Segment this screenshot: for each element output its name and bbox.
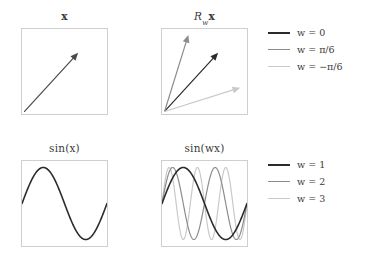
legend-item-label: w = 1	[297, 159, 325, 170]
plot-panel-rotated-vector	[161, 28, 248, 115]
legend-item[interactable]: w = π/6	[268, 43, 343, 56]
sine-w-curve-group	[162, 167, 247, 239]
legend-rotation: w = 0w = π/6w = −π/6	[268, 26, 343, 73]
legend-item[interactable]: w = 3	[268, 192, 325, 205]
legend-item-label: w = 2	[297, 176, 325, 187]
legend-item[interactable]: w = 0	[268, 26, 343, 39]
plot-panel-vector	[21, 28, 108, 115]
panel-title-rwx-suffix: x	[208, 10, 214, 22]
panel-title-rwx-base: R	[194, 10, 202, 22]
figure-canvas: x Rwx sin(x) sin(wx) w = 0w = π/6w = −π/…	[0, 0, 366, 267]
panel-title-x: x	[21, 10, 108, 22]
legend-line-swatch	[268, 66, 290, 67]
panel-title-sinwx: sin(wx)	[161, 142, 248, 154]
legend-line-swatch	[268, 164, 290, 166]
rotated-arrow-group	[165, 35, 241, 112]
legend-item-label: w = −π/6	[297, 61, 343, 72]
panel-title-rwx-subscript: w	[202, 19, 208, 27]
legend-item[interactable]: w = 1	[268, 158, 325, 171]
arrow-head	[183, 35, 189, 43]
legend-line-swatch	[268, 181, 290, 182]
legend-item-label: w = 3	[297, 193, 325, 204]
sine-curve	[162, 167, 247, 239]
arrow-shaft	[165, 40, 187, 111]
sine-curve-group	[22, 167, 107, 239]
legend-item-label: w = π/6	[297, 44, 335, 55]
rotated-vector-plot-svg	[162, 29, 247, 114]
sine-w-plot-svg	[162, 161, 247, 246]
legend-item[interactable]: w = −π/6	[268, 60, 343, 73]
panel-title-sinwx-text: sin(wx)	[184, 142, 224, 154]
panel-title-x-text: x	[61, 10, 67, 22]
vector-arrow-group	[25, 53, 79, 112]
sine-plot-svg	[22, 161, 107, 246]
legend-line-swatch	[268, 49, 290, 50]
legend-line-swatch	[268, 198, 290, 199]
legend-line-swatch	[268, 32, 290, 34]
plot-panel-sine	[21, 160, 108, 247]
plot-panel-sine-w	[161, 160, 248, 247]
legend-frequency: w = 1w = 2w = 3	[268, 158, 325, 205]
arrow-head	[232, 87, 240, 93]
panel-title-rwx: Rwx	[161, 10, 248, 27]
legend-item-label: w = 0	[297, 27, 325, 38]
arrow-shaft	[25, 57, 75, 111]
panel-title-sinx: sin(x)	[21, 142, 108, 154]
sine-curve	[22, 167, 107, 239]
vector-plot-svg	[22, 29, 107, 114]
panel-title-sinx-text: sin(x)	[49, 142, 80, 154]
legend-item[interactable]: w = 2	[268, 175, 325, 188]
